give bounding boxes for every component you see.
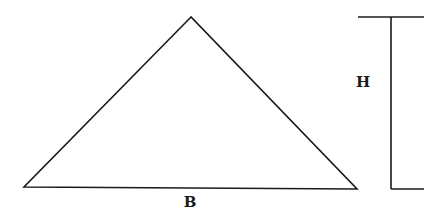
triangle-shape bbox=[24, 17, 357, 189]
base-label: B bbox=[184, 195, 197, 210]
triangle-diagram bbox=[0, 0, 447, 221]
height-label: H bbox=[356, 75, 370, 90]
